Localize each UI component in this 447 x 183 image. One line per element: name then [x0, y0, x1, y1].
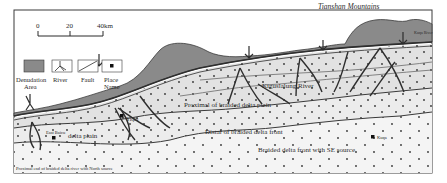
geologic-map: 0 20 40km Denudation Area River Fault Pl… [0, 0, 447, 183]
legend-label-fault: Fault [81, 76, 95, 83]
label-delta-plain: delta plain [68, 132, 98, 140]
label-proximal-plain: Proximal of braided delta plain [184, 101, 272, 109]
denudation-area-icon [24, 60, 44, 72]
place-marker-east-baicu [52, 136, 56, 140]
label-provenance-north: Proximal end of braided delta river with… [16, 166, 113, 171]
map-title: Tianshan Mountains [318, 2, 380, 11]
scale-tick-20: 20 [66, 22, 74, 30]
river-icon [52, 60, 72, 72]
place-kuqa: Kuqa [377, 135, 387, 140]
legend-label-river: River [53, 76, 68, 83]
label-kiguslalung-river: Kiguslalung River [262, 82, 314, 90]
place-east-baicu: East Baicu [46, 130, 66, 135]
legend-label-name: Name [104, 83, 120, 90]
label-se-source: Braided delta front with SE source [258, 146, 355, 154]
legend-label-denudation: Denudation [16, 76, 47, 83]
fault-icon [78, 60, 98, 72]
place-kuqa-river: Kuqa River [414, 30, 433, 35]
legend-label-place: Place [104, 76, 118, 83]
legend-label-area: Area [24, 83, 37, 90]
place-yiqiu: Yiqiu [126, 116, 138, 122]
scale-tick-40km: 40km [97, 22, 114, 30]
place-marker-kuqa [371, 135, 375, 139]
place-name-icon [102, 60, 122, 72]
place-marker-yiqiu [120, 114, 124, 118]
scale-tick-0: 0 [36, 22, 40, 30]
label-distal-front: Distal of braided delta front [205, 128, 283, 136]
